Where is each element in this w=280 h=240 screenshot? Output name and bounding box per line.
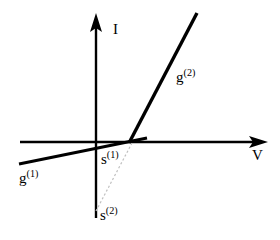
curve-g1-label: g(1) [19, 169, 38, 186]
curve-g2-label: g(2) [176, 68, 195, 85]
curve-g2-label-base: g [176, 69, 184, 85]
state-s1-label-superscript: (1) [107, 149, 119, 160]
state-s2-label-superscript: (2) [106, 205, 118, 216]
curve-g1-label-base: g [19, 170, 27, 186]
curve-g1-label-superscript: (1) [27, 168, 39, 179]
current-axis-label: I [113, 22, 118, 37]
state-s1-label: s(1) [101, 150, 119, 167]
plot-canvas [0, 0, 280, 240]
curve-g2-label-superscript: (2) [184, 67, 196, 78]
voltage-axis-label: V [252, 148, 263, 163]
iv-characteristic-figure: I V g(1) g(2) s(1) s(2) [0, 0, 280, 240]
state-s2-label: s(2) [100, 206, 118, 223]
